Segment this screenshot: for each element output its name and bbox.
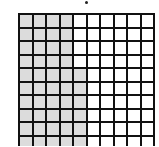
grid-cell-empty — [128, 123, 142, 137]
grid-cell-shaded — [47, 29, 61, 43]
grid-cell-shaded — [47, 83, 61, 97]
grid-cell-shaded — [47, 69, 61, 83]
grid-cell-shaded — [61, 123, 75, 137]
grid-cell-empty — [101, 69, 115, 83]
grid-cell-empty — [101, 83, 115, 97]
grid-cell-empty — [101, 137, 115, 147]
grid-cell-shaded — [47, 110, 61, 124]
grid-cell-shaded — [20, 137, 34, 147]
grid-cell-empty — [101, 110, 115, 124]
hundred-grid — [18, 13, 155, 146]
grid-cell-empty — [128, 110, 142, 124]
grid-cell-empty — [115, 83, 129, 97]
grid-cell-shaded — [61, 42, 75, 56]
grid-cell-shaded — [34, 83, 48, 97]
grid-cell-shaded — [47, 137, 61, 147]
grid-cell-empty — [115, 123, 129, 137]
grid-cell-empty — [88, 110, 102, 124]
grid-cell-shaded — [61, 96, 75, 110]
grid-cell-empty — [101, 96, 115, 110]
grid-cell-empty — [115, 69, 129, 83]
grid-cell-shaded — [47, 42, 61, 56]
grid-cell-shaded — [61, 15, 75, 29]
grid-cell-shaded — [47, 56, 61, 70]
grid-cell-empty — [74, 56, 88, 70]
grid-cell-shaded — [20, 110, 34, 124]
grid-cell-empty — [142, 96, 156, 110]
grid-cell-shaded — [34, 96, 48, 110]
grid-cell-shaded — [20, 56, 34, 70]
grid-cell-empty — [115, 15, 129, 29]
grid-cell-shaded — [34, 110, 48, 124]
grid-cell-empty — [142, 137, 156, 147]
grid-cell-shaded — [74, 137, 88, 147]
grid-cell-empty — [128, 69, 142, 83]
grid-cell-shaded — [61, 110, 75, 124]
grid-cell-empty — [115, 42, 129, 56]
grid-cell-shaded — [61, 29, 75, 43]
grid-cell-empty — [88, 96, 102, 110]
grid-cell-empty — [142, 42, 156, 56]
grid-cell-empty — [74, 29, 88, 43]
grid-cell-shaded — [34, 137, 48, 147]
grid-cell-empty — [101, 123, 115, 137]
grid-cell-shaded — [34, 69, 48, 83]
grid-cell-shaded — [20, 123, 34, 137]
grid-cell-shaded — [74, 83, 88, 97]
grid-cell-empty — [142, 110, 156, 124]
grid-cell-shaded — [47, 123, 61, 137]
grid-cell-shaded — [20, 69, 34, 83]
grid-cell-empty — [128, 83, 142, 97]
grid-cell-shaded — [61, 83, 75, 97]
grid-cell-empty — [101, 15, 115, 29]
grid-cell-empty — [88, 69, 102, 83]
grid-cell-shaded — [34, 123, 48, 137]
top-dot-mark — [85, 1, 88, 4]
grid-cell-shaded — [47, 96, 61, 110]
grid-cell-shaded — [74, 96, 88, 110]
grid-cell-empty — [142, 15, 156, 29]
grid-cell-empty — [88, 42, 102, 56]
grid-cell-empty — [128, 29, 142, 43]
grid-cell-shaded — [34, 56, 48, 70]
grid-cell-empty — [128, 15, 142, 29]
grid-cell-shaded — [34, 42, 48, 56]
grid-cell-shaded — [74, 110, 88, 124]
grid-cell-shaded — [61, 56, 75, 70]
grid-cell-shaded — [74, 123, 88, 137]
grid-cell-empty — [128, 56, 142, 70]
grid-cell-empty — [88, 83, 102, 97]
grid-cell-empty — [128, 137, 142, 147]
grid-cell-empty — [142, 56, 156, 70]
grid-cell-shaded — [61, 69, 75, 83]
grid-cell-empty — [88, 123, 102, 137]
grid-cell-shaded — [47, 15, 61, 29]
grid-cell-empty — [128, 42, 142, 56]
grid-cell-empty — [101, 29, 115, 43]
grid-cell-empty — [101, 42, 115, 56]
grid-cell-empty — [142, 123, 156, 137]
grid-cell-empty — [88, 56, 102, 70]
grid-cell-shaded — [20, 15, 34, 29]
grid-cell-empty — [74, 15, 88, 29]
grid-cell-empty — [88, 137, 102, 147]
grid-cell-empty — [88, 15, 102, 29]
grid-cell-shaded — [20, 29, 34, 43]
grid-cell-empty — [115, 56, 129, 70]
grid-cell-shaded — [74, 69, 88, 83]
grid-cell-empty — [101, 56, 115, 70]
grid-cell-shaded — [20, 83, 34, 97]
grid-cell-empty — [115, 29, 129, 43]
grid-cell-empty — [115, 96, 129, 110]
grid-cell-shaded — [61, 137, 75, 147]
grid-cell-shaded — [34, 15, 48, 29]
grid-cell-shaded — [20, 42, 34, 56]
grid-cell-empty — [115, 137, 129, 147]
grid-cell-empty — [128, 96, 142, 110]
grid-cell-shaded — [20, 96, 34, 110]
grid-cell-empty — [88, 29, 102, 43]
grid-cell-shaded — [34, 29, 48, 43]
grid-cell-empty — [142, 83, 156, 97]
grid-cell-empty — [142, 29, 156, 43]
grid-cell-empty — [74, 42, 88, 56]
